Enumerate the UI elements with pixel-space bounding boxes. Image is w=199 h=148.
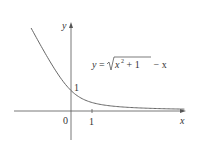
svg-text:x: x xyxy=(114,59,120,70)
equation-label: y = x 2 + 1 − x xyxy=(91,57,167,70)
svg-text:=: = xyxy=(99,59,105,70)
origin-label: 0 xyxy=(63,115,68,126)
y-axis-label: y xyxy=(61,20,67,31)
y-tick-1-label: 1 xyxy=(74,82,79,93)
x-axis-label: x xyxy=(179,115,185,126)
function-graph: y x 0 1 1 y = x 2 + 1 − x xyxy=(0,0,199,148)
x-axis-arrow-icon xyxy=(180,109,186,113)
svg-text:y: y xyxy=(91,59,97,70)
y-axis-arrow-icon xyxy=(69,22,73,28)
svg-text:+ 1: + 1 xyxy=(124,59,140,70)
svg-text:− x: − x xyxy=(151,59,167,70)
x-tick-1-label: 1 xyxy=(89,116,94,127)
